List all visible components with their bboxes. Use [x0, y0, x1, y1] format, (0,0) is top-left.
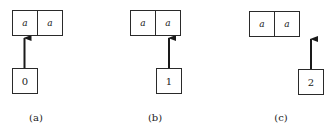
pointer-node-a: 0: [12, 68, 38, 94]
pair-cell-a-1: a: [37, 10, 63, 36]
pair-cell-a-0: a: [12, 10, 38, 36]
pair-cell-c-0: a: [249, 11, 275, 37]
pointer-node-c: 2: [298, 69, 324, 95]
pair-cell-b-1: a: [155, 10, 181, 36]
pair-cell-c-1: a: [274, 11, 300, 37]
pair-cell-b-0: a: [130, 10, 156, 36]
caption-c: (c): [274, 112, 287, 123]
pointer-node-b: 1: [156, 68, 182, 94]
caption-a: (a): [29, 112, 43, 123]
caption-b: (b): [148, 112, 162, 123]
